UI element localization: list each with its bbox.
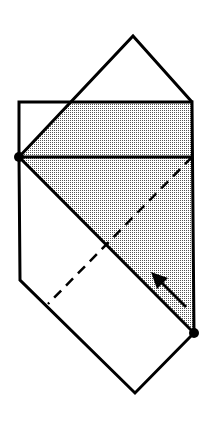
left-point-dot bbox=[14, 152, 24, 162]
right-point-dot bbox=[189, 328, 199, 338]
fold-diagram bbox=[0, 0, 216, 443]
shaded-region bbox=[19, 102, 194, 333]
